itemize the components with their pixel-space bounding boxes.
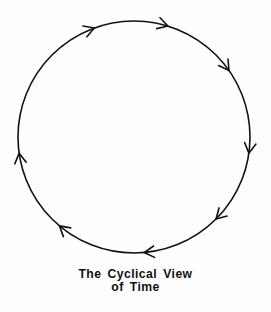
cyclical-time-circle-diagram: [0, 0, 271, 312]
caption-line-1: The Cyclical View: [0, 268, 271, 281]
figure-root: The Cyclical View of Time: [0, 0, 271, 312]
figure-caption: The Cyclical View of Time: [0, 268, 271, 293]
circle-path-group: [18, 21, 250, 253]
cycle-circle-outline: [18, 21, 250, 253]
caption-line-2: of Time: [0, 281, 271, 294]
arrowhead-layer: [15, 18, 256, 258]
